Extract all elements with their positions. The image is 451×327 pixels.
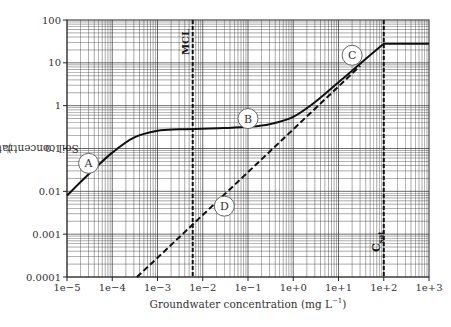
y-tick-label: 0.01 [39,186,61,197]
y-axis-label: Soil concentration (mg kg−1) [0,20,20,277]
y-tick-label: 0.0001 [26,272,61,283]
annotation-d: D [214,196,234,216]
annotation-b: B [238,109,258,129]
annotation-label: B [244,113,252,126]
series-linear-partitioning [137,66,360,277]
annotation-label: C [348,49,356,62]
x-tick-label: 1e+0 [280,282,307,293]
x-tick-label: 1e−5 [53,282,80,293]
log-log-chart: 1e−51e−41e−31e−21e−11e+01e+11e+21e+30.00… [0,0,451,327]
y-tick-label: 0.001 [32,229,61,240]
x-tick-label: 1e−3 [144,282,171,293]
mcl-label: MCL [180,29,191,55]
x-tick-label: 1e−2 [189,282,216,293]
grid-lines [67,20,429,277]
y-tick-label: 1 [55,100,61,111]
x-tick-label: 1e+3 [415,282,442,293]
x-axis-label: Groundwater concentration (mg L−1) [67,297,429,310]
x-tick-label: 1e+2 [370,282,397,293]
y-tick-label: 100 [42,15,61,26]
curve-annotations: ABCD [79,45,363,216]
x-tick-label: 1e−4 [99,282,126,293]
annotation-c: C [342,45,362,65]
annotation-a: A [79,153,99,173]
annotation-label: D [220,200,229,213]
annotation-label: A [84,157,94,170]
y-tick-label: 10 [48,57,61,68]
x-tick-label: 1e+1 [325,282,352,293]
x-tick-label: 1e−1 [234,282,261,293]
